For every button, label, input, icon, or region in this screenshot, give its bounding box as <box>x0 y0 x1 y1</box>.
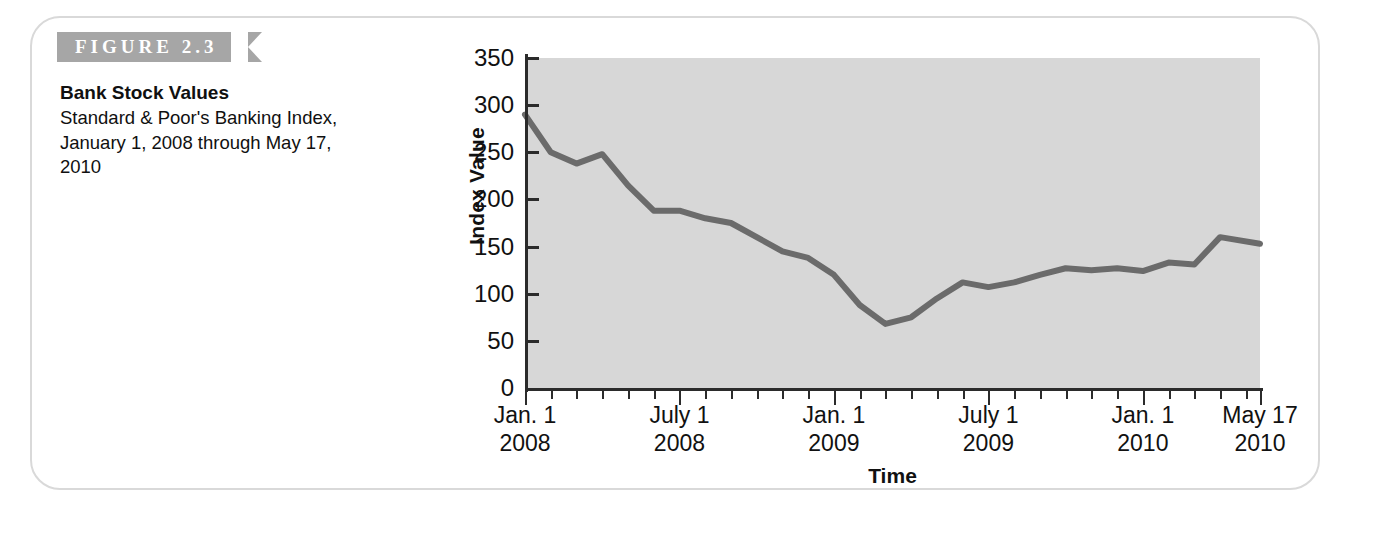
x-axis-minor-tick <box>757 391 759 399</box>
y-axis-tick-label: 350 <box>474 44 514 72</box>
x-axis-minor-tick <box>1169 391 1171 399</box>
figure-page: FIGURE 2.3 Bank Stock Values Standard & … <box>0 0 1377 534</box>
x-axis-tick-label-year: 2009 <box>958 430 1018 458</box>
x-axis-minor-tick <box>1246 391 1248 399</box>
x-axis-minor-tick <box>731 391 733 399</box>
x-axis-minor-tick <box>1194 391 1196 399</box>
x-axis-tick-label-year: 2010 <box>1222 430 1297 458</box>
x-axis-minor-tick <box>1040 391 1042 399</box>
x-axis-minor-tick <box>628 391 630 399</box>
x-axis-minor-tick <box>1117 391 1119 399</box>
y-axis-tick <box>528 57 539 60</box>
figure-banner-label: FIGURE 2.3 <box>75 36 217 58</box>
y-axis-tick-labels: 050100150200250300350 <box>442 24 514 424</box>
x-axis-tick-label-date: July 1 <box>958 402 1018 430</box>
x-axis-minor-tick <box>911 391 913 399</box>
plot-area <box>525 58 1260 388</box>
x-axis-minor-tick <box>937 391 939 399</box>
x-axis-tick-label: Jan. 12009 <box>803 402 866 457</box>
figure-banner-arrow-icon <box>248 32 262 62</box>
x-axis-minor-tick <box>782 391 784 399</box>
x-axis-minor-tick <box>654 391 656 399</box>
x-axis-tick-label: July 12009 <box>958 402 1018 457</box>
figure-caption: Bank Stock Values Standard & Poor's Bank… <box>60 80 360 180</box>
x-axis-minor-tick <box>808 391 810 399</box>
x-axis-tick-label-year: 2008 <box>494 430 557 458</box>
y-axis-tick <box>528 340 539 343</box>
x-axis-tick-label-date: Jan. 1 <box>1112 402 1175 430</box>
x-axis-minor-tick <box>705 391 707 399</box>
x-axis-minor-tick <box>1220 391 1222 399</box>
x-axis-tick-label: May 172010 <box>1222 402 1297 457</box>
x-axis-tick-label: Jan. 12010 <box>1112 402 1175 457</box>
x-axis-tick-label-date: May 17 <box>1222 402 1297 430</box>
x-axis-minor-tick <box>602 391 604 399</box>
x-axis-tick-label-date: July 1 <box>649 402 709 430</box>
y-axis-tick <box>528 246 539 249</box>
y-axis-tick-label: 0 <box>501 374 514 402</box>
series-line-path <box>525 58 1260 388</box>
y-axis-tick-label: 250 <box>474 138 514 166</box>
x-axis-minor-tick <box>576 391 578 399</box>
y-axis-tick-label: 200 <box>474 185 514 213</box>
x-axis-tick-label-date: Jan. 1 <box>803 402 866 430</box>
x-axis-minor-tick <box>1091 391 1093 399</box>
y-axis-tick-label: 300 <box>474 91 514 119</box>
caption-body: Standard & Poor's Banking Index, January… <box>60 106 360 180</box>
x-axis-minor-tick <box>963 391 965 399</box>
chart: Index Value 050100150200250300350 Jan. 1… <box>400 24 1300 484</box>
x-axis-minor-tick <box>1066 391 1068 399</box>
x-axis-tick-label-year: 2008 <box>649 430 709 458</box>
y-axis-tick <box>528 198 539 201</box>
figure-banner: FIGURE 2.3 <box>57 32 231 62</box>
y-axis-tick-label: 150 <box>474 233 514 261</box>
y-axis-tick-label: 100 <box>474 280 514 308</box>
series-line <box>525 115 1260 324</box>
x-axis-tick-label-year: 2009 <box>803 430 866 458</box>
x-axis-title: Time <box>525 464 1260 488</box>
y-axis-tick <box>528 104 539 107</box>
x-axis-tick-labels: Jan. 12008July 12008Jan. 12009July 12009… <box>400 402 1300 472</box>
x-axis-line <box>525 388 1263 391</box>
x-axis-tick-label: Jan. 12008 <box>494 402 557 457</box>
x-axis-minor-tick <box>551 391 553 399</box>
x-axis-minor-tick <box>885 391 887 399</box>
y-axis-tick <box>528 151 539 154</box>
x-axis-tick-label: July 12008 <box>649 402 709 457</box>
y-axis-tick-label: 50 <box>487 327 514 355</box>
x-axis-minor-tick <box>860 391 862 399</box>
caption-title: Bank Stock Values <box>60 80 360 105</box>
y-axis-tick <box>528 293 539 296</box>
x-axis-tick-label-date: Jan. 1 <box>494 402 557 430</box>
x-axis-minor-tick <box>1014 391 1016 399</box>
x-axis-tick-label-year: 2010 <box>1112 430 1175 458</box>
